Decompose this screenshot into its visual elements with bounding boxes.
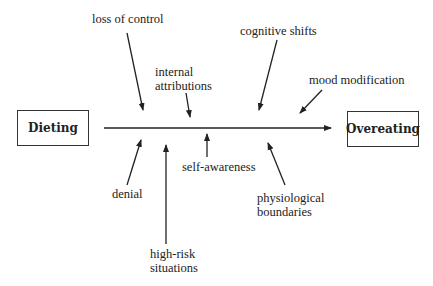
denial-label: denial <box>112 187 143 201</box>
self-awareness-label: self-awareness <box>182 160 256 174</box>
overeating-box: Overeating <box>347 111 419 147</box>
fishbone-diagram: Dieting Overeating loss of control inter… <box>0 0 433 286</box>
internal-attributions-line1: internal <box>155 65 212 79</box>
physiological-line2: boundaries <box>257 205 324 219</box>
internal-attributions-label: internal attributions <box>155 65 212 93</box>
high-risk-situations-label: high-risk situations <box>150 247 198 275</box>
mood-modification-label: mood modification <box>309 73 404 87</box>
internal-attributions-arrow <box>186 93 190 117</box>
overeating-label: Overeating <box>346 122 420 136</box>
loss-of-control-label: loss of control <box>92 12 164 26</box>
cognitive-shifts-label: cognitive shifts <box>240 24 317 38</box>
dieting-label: Dieting <box>28 121 78 135</box>
physiological-line1: physiological <box>257 191 324 205</box>
physiological-boundaries-label: physiological boundaries <box>257 191 324 219</box>
denial-arrow <box>127 140 141 185</box>
high-risk-line1: high-risk <box>150 247 198 261</box>
cognitive-shifts-arrow <box>259 40 277 110</box>
loss-of-control-arrow <box>127 33 143 110</box>
mood-modification-arrow <box>300 90 322 113</box>
physiological-boundaries-arrow <box>268 143 285 185</box>
internal-attributions-line2: attributions <box>155 79 212 93</box>
high-risk-line2: situations <box>150 261 198 275</box>
dieting-box: Dieting <box>17 110 89 146</box>
